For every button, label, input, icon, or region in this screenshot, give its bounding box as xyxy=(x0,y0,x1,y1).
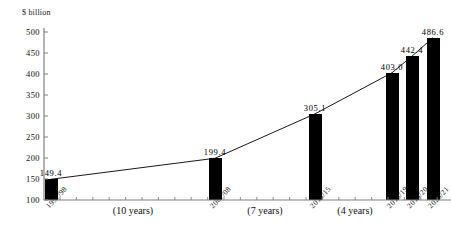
plot-area: 149.4199.4305.1403.0442.4486.6 xyxy=(44,32,451,200)
y-axis-tick-label: 250 xyxy=(14,132,40,142)
bar xyxy=(406,56,419,200)
bar-value-label: 403.0 xyxy=(381,62,404,72)
y-axis-tick-label: 150 xyxy=(14,174,40,184)
y-axis-tick-label: 500 xyxy=(14,27,40,37)
gap-annotation: (4 years) xyxy=(337,205,372,216)
bar xyxy=(427,38,440,200)
bar-value-label: 149.4 xyxy=(40,168,63,178)
y-axis-tick-label: 300 xyxy=(14,111,40,121)
y-axis-tick-label: 450 xyxy=(14,48,40,58)
y-axis-tick-label: 200 xyxy=(14,153,40,163)
y-axis-tick-label: 100 xyxy=(14,195,40,205)
y-axis-tick-label: 350 xyxy=(14,90,40,100)
bar-value-label: 305.1 xyxy=(304,103,327,113)
y-axis-tick-label: 400 xyxy=(14,69,40,79)
bar-value-label: 486.6 xyxy=(422,27,445,37)
bar-value-label: 442.4 xyxy=(401,45,424,55)
bar-value-label: 199.4 xyxy=(204,147,227,157)
gap-annotation: (10 years) xyxy=(113,205,153,216)
gap-annotation: (7 years) xyxy=(247,205,282,216)
chart-container: $ billion 100150200250300350400450500 14… xyxy=(0,0,451,239)
bar xyxy=(309,114,322,200)
bar xyxy=(386,73,399,200)
y-axis-title: $ billion xyxy=(22,8,51,17)
